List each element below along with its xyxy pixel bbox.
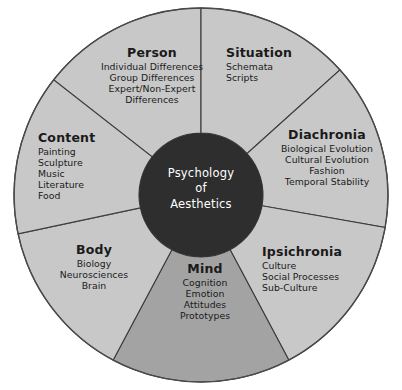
center-hub-circle <box>139 133 263 257</box>
wheel-graphic <box>0 0 402 390</box>
aesthetics-wheel-diagram: Person Individual DifferencesGroup Diffe… <box>0 0 402 390</box>
